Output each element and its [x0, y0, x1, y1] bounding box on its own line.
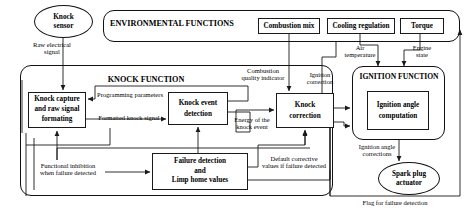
engine-state-line2: state	[402, 51, 442, 58]
raw-electrical-signal-line2: signal	[16, 48, 88, 55]
node-knock-sensor-label-line2: sensor	[54, 22, 74, 30]
node-cooling-regulation[interactable]: Cooling regulation	[327, 18, 395, 34]
node-failure-detection-line2: and	[194, 167, 206, 177]
raw-electrical-signal-line1: Raw electrical	[16, 41, 88, 48]
edge-label-raw-electrical-signal: Raw electrical signal	[16, 41, 88, 55]
ignition-correction-line1: Ignition	[300, 71, 340, 78]
edge-label-functional-inhibition: Functional inhibition when failure detec…	[30, 162, 106, 176]
node-knock-event-line2: detection	[184, 109, 212, 119]
node-knock-capture-line3: formating	[42, 115, 73, 125]
energy-of-knock-line2: knock event	[228, 123, 276, 130]
engine-state-line1: Engine	[402, 44, 442, 51]
edge-label-programming-parameters: Programming parameters	[88, 91, 172, 98]
combustion-quality-line1: Combustion	[234, 67, 292, 74]
node-spark-plug-line2: actuator	[396, 179, 422, 188]
ignition-function-title: IGNITION FUNCTION	[355, 72, 443, 81]
edge-label-combustion-quality-indicator: Combustion quality indicator	[234, 67, 292, 81]
node-failure-detection-line1: Failure detection	[174, 157, 226, 167]
default-corrective-line2: values if failure detected	[251, 162, 337, 169]
node-knock-event-detection[interactable]: Knock event detection	[168, 92, 228, 125]
environmental-functions-title: ENVIRONMENTAL FUNCTIONS	[110, 19, 234, 28]
functional-inhibition-line2: when failure detected	[30, 169, 106, 176]
edge-label-formatted-knock-signal: Formatted knock signal	[88, 114, 170, 121]
node-knock-correction-line1: Knock	[295, 100, 315, 110]
node-knock-event-line1: Knock event	[179, 98, 218, 108]
node-failure-detection[interactable]: Failure detection and Limp home values	[152, 153, 248, 190]
node-ignition-angle-line1: Ignition angle	[377, 100, 420, 110]
node-knock-sensor[interactable]: Knock sensor	[34, 5, 93, 38]
ignition-angle-corrections-line2: corrections	[350, 150, 404, 157]
default-corrective-line1: Default corrective	[251, 155, 337, 162]
node-knock-capture-line1: Knock capture	[34, 95, 80, 105]
node-ignition-angle-line2: computation	[379, 111, 418, 121]
edge-label-energy-of-knock-event: Energy of the knock event	[228, 116, 276, 130]
node-ignition-angle-computation[interactable]: Ignition angle computation	[367, 91, 429, 130]
node-cooling-regulation-label: Cooling regulation	[332, 22, 389, 30]
edge-label-ignition-correction: Ignition correction	[300, 71, 340, 85]
functional-inhibition-line1: Functional inhibition	[30, 162, 106, 169]
edge-label-flag-for-failure-detection: Flag for failure detection	[340, 199, 450, 206]
edge-label-ignition-angle-corrections: Ignition angle corrections	[350, 143, 404, 157]
node-combustion-mix[interactable]: Combustion mix	[258, 18, 320, 34]
energy-of-knock-line1: Energy of the	[228, 116, 276, 123]
air-temperature-line1: Air	[337, 44, 383, 51]
edge-label-air-temperature: Air temperature	[337, 44, 383, 58]
node-combustion-mix-label: Combustion mix	[264, 22, 315, 30]
air-temperature-line2: temperature	[337, 51, 383, 58]
block-diagram-canvas: ENVIRONMENTAL FUNCTIONS Combustion mix C…	[0, 0, 471, 215]
ignition-angle-corrections-line1: Ignition angle	[350, 143, 404, 150]
ignition-correction-line2: correction	[300, 78, 340, 85]
node-failure-detection-line3: Limp home values	[172, 176, 228, 186]
node-knock-capture[interactable]: Knock capture and raw signal formating	[28, 92, 86, 128]
edge-label-engine-state: Engine state	[402, 44, 442, 58]
combustion-quality-line2: quality indicator	[234, 74, 292, 81]
node-knock-capture-line2: and raw signal	[34, 105, 79, 115]
node-knock-correction[interactable]: Knock correction	[276, 93, 334, 128]
node-spark-plug-line1: Spark plug	[392, 170, 426, 179]
knock-function-title: KNOCK FUNCTION	[86, 75, 206, 84]
node-spark-plug-actuator[interactable]: Spark plug actuator	[378, 162, 440, 195]
node-torque[interactable]: Torque	[400, 18, 444, 34]
node-knock-correction-line2: correction	[289, 111, 320, 121]
node-torque-label: Torque	[411, 22, 433, 30]
edge-label-default-corrective-values: Default corrective values if failure det…	[251, 155, 337, 169]
